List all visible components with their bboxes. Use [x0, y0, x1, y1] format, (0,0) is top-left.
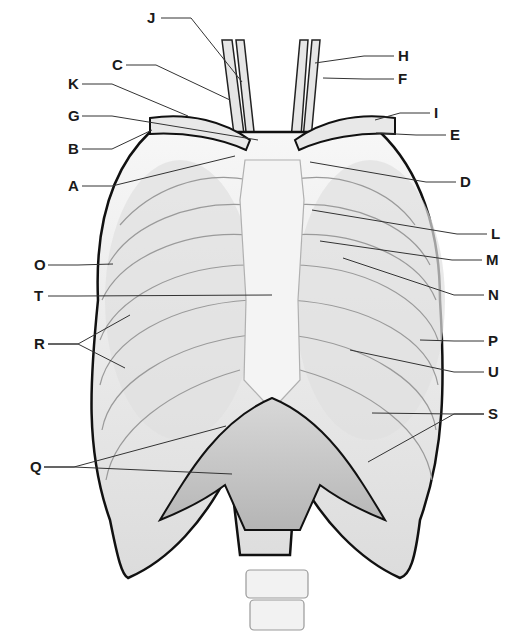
label-b: B — [68, 141, 79, 156]
label-c: C — [112, 57, 123, 72]
sternum — [240, 160, 304, 410]
label-m: M — [486, 252, 499, 267]
label-j: J — [147, 10, 155, 25]
label-l: L — [491, 226, 500, 241]
label-a: A — [68, 178, 79, 193]
label-g: G — [68, 108, 80, 123]
label-i: I — [434, 105, 438, 120]
label-h: H — [398, 48, 409, 63]
label-s: S — [488, 406, 498, 421]
leader-line-f — [323, 78, 394, 79]
leader-line-k — [82, 84, 188, 116]
label-p: P — [488, 333, 498, 348]
label-r: R — [34, 336, 45, 351]
label-u: U — [488, 364, 499, 379]
label-d: D — [460, 174, 471, 189]
leader-line-e — [376, 133, 446, 135]
thoracic-cage-diagram — [0, 0, 527, 637]
label-f: F — [398, 71, 407, 86]
lumbar-vertebra — [246, 570, 308, 630]
leader-line-h — [315, 56, 394, 63]
label-o: O — [34, 257, 46, 272]
label-t: T — [34, 288, 43, 303]
label-k: K — [68, 76, 79, 91]
label-n: N — [488, 287, 499, 302]
leader-line-c — [126, 65, 230, 100]
label-e: E — [450, 127, 460, 142]
label-q: Q — [30, 459, 42, 474]
left-lung — [105, 160, 255, 440]
